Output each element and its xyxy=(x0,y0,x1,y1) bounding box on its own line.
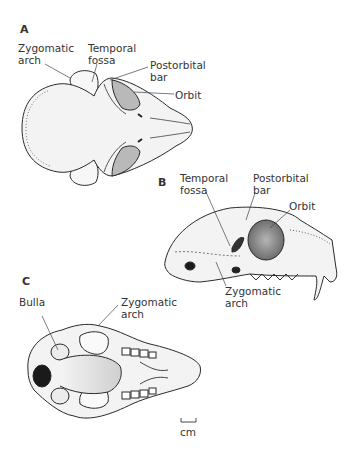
label-b-postorbital-bar: Postorbital bar xyxy=(253,172,309,196)
label-line: arch xyxy=(18,54,74,66)
label-line: Zygomatic xyxy=(225,285,281,297)
panel-label-a: A xyxy=(20,23,29,36)
label-line: Orbit xyxy=(175,89,201,101)
label-line: Orbit xyxy=(289,200,315,212)
label-a-zygomatic-arch: Zygomatic arch xyxy=(18,42,74,66)
label-line: fossa xyxy=(180,184,228,196)
skull-ventral-view xyxy=(28,324,201,418)
label-line: Zygomatic xyxy=(121,296,177,308)
label-line: arch xyxy=(225,297,281,309)
label-a-orbit: Orbit xyxy=(175,89,201,101)
label-line: Postorbital xyxy=(150,59,206,71)
label-line: Bulla xyxy=(19,296,45,308)
label-b-zygomatic-arch: Zygomatic arch xyxy=(225,285,281,309)
panel-label-b: B xyxy=(158,176,166,189)
label-c-bulla: Bulla xyxy=(19,296,45,308)
label-line: Postorbital xyxy=(253,172,309,184)
skull-dorsal-view xyxy=(22,71,192,186)
label-b-temporal-fossa: Temporal fossa xyxy=(180,172,228,196)
label-a-temporal-fossa: Temporal fossa xyxy=(88,42,136,66)
label-line: bar xyxy=(150,71,206,83)
scale-bar xyxy=(181,418,196,422)
scale-bar-unit: cm xyxy=(180,426,196,438)
label-line: Temporal xyxy=(180,172,228,184)
label-line: Zygomatic xyxy=(18,42,74,54)
label-line: arch xyxy=(121,308,177,320)
label-b-orbit: Orbit xyxy=(289,200,315,212)
label-c-zygomatic-arch: Zygomatic arch xyxy=(121,296,177,320)
panel-label-c: C xyxy=(22,275,30,288)
label-line: Temporal xyxy=(88,42,136,54)
label-line: bar xyxy=(253,184,309,196)
label-a-postorbital-bar: Postorbital bar xyxy=(150,59,206,83)
label-line: fossa xyxy=(88,54,136,66)
